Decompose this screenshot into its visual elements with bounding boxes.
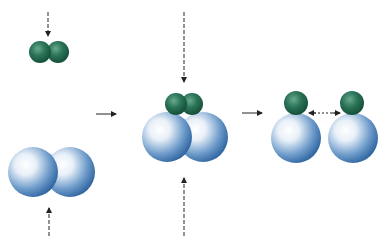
blue-atom-with-green-atom-left — [271, 91, 321, 163]
blue-atom-with-green-atom-right — [328, 91, 378, 163]
green-diatomic-molecule — [29, 41, 69, 63]
blue-diatomic-molecule — [142, 112, 228, 162]
green-diatomic-molecule — [165, 93, 203, 115]
stage-dissociated — [271, 91, 378, 163]
blue-diatomic-molecule — [8, 147, 95, 197]
diagram-canvas — [0, 0, 386, 244]
stage-complex — [142, 12, 228, 236]
stage-approach — [8, 12, 95, 236]
